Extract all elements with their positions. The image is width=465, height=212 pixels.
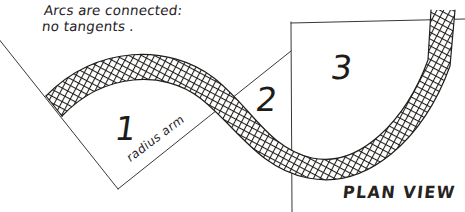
plan-view-sketch: Arcs are connected:no tangents . radius … bbox=[0, 0, 465, 212]
note-text: Arcs are connected:no tangents . bbox=[41, 2, 183, 34]
note-line-1: Arcs are connected: bbox=[43, 2, 183, 18]
plan-view-label: PLAN VIEW bbox=[342, 182, 457, 202]
region-divider-vertical bbox=[291, 22, 292, 212]
note-line-2: no tangents . bbox=[41, 18, 135, 34]
